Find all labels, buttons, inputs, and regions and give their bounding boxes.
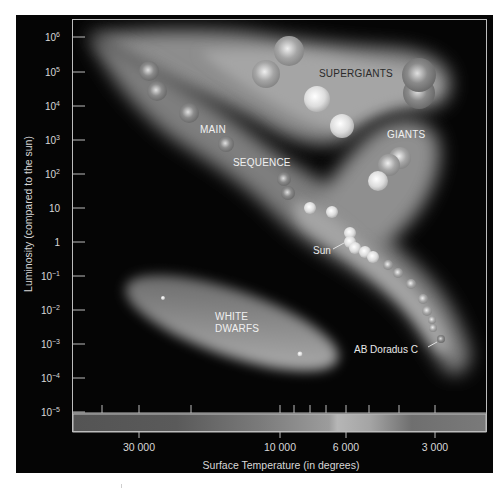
- y-axis-title: Luminosity (compared to the sun): [22, 136, 34, 292]
- sun-label: Sun: [313, 245, 331, 256]
- white2-label: DWARFS: [215, 323, 259, 334]
- y-tick-label: 10−1: [41, 270, 60, 282]
- x-tick-label: 6 000: [333, 441, 359, 453]
- supergiants-label: SUPERGIANTS: [319, 68, 393, 79]
- y-tick-label: 10−2: [41, 304, 60, 316]
- x-tick-label: 3 000: [422, 441, 448, 453]
- y-tick-label: 106: [45, 31, 60, 43]
- sequence-label: SEQUENCE: [233, 157, 291, 168]
- ab-doradus-c-label: AB Doradus C: [354, 344, 418, 355]
- y-tick-label: 105: [45, 66, 60, 78]
- y-tick-label: 10−4: [41, 372, 60, 384]
- y-tick-label: 1: [54, 237, 60, 248]
- x-axis-title: Surface Temperature (in degrees): [203, 459, 360, 471]
- giants-label: GIANTS: [387, 129, 425, 140]
- y-tick-label: 10: [49, 203, 60, 214]
- plot-frame: [72, 19, 487, 432]
- main-label: MAIN: [200, 124, 226, 135]
- x-tick-label: 10 000: [264, 441, 296, 453]
- x-tick-label: 30 000: [123, 441, 155, 453]
- y-tick-label: 10−5: [41, 406, 60, 418]
- y-tick-label: 102: [45, 168, 60, 180]
- stray-mark: [121, 484, 122, 488]
- y-tick-label: 104: [45, 100, 60, 112]
- white1-label: WHITE: [215, 311, 248, 322]
- y-tick-label: 10−3: [41, 338, 60, 350]
- y-tick-label: 103: [45, 134, 60, 146]
